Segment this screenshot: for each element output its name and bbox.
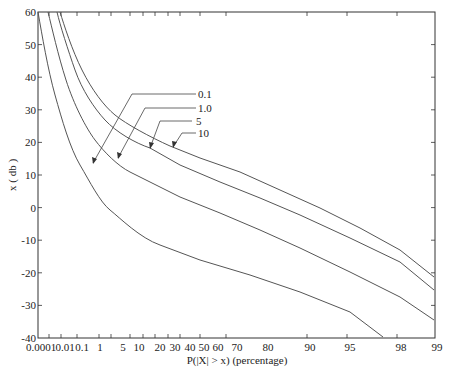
- y-tick-label: 0: [31, 202, 37, 214]
- callouts: [93, 94, 196, 163]
- x-tick-label: 1: [97, 341, 103, 353]
- x-tick-labels: 0.0001 0.01 0.1 1 5 10 20 30 40 50 60 70…: [26, 341, 443, 353]
- legend-label-5: 5: [196, 115, 202, 127]
- x-tick-label: 60: [213, 341, 225, 353]
- x-tick-label: 0.1: [75, 341, 89, 353]
- y-tick-label: -10: [21, 234, 36, 246]
- y-tick-label: 50: [25, 39, 37, 51]
- legend-label-10: 10: [198, 127, 210, 139]
- y-tick-label: 10: [25, 169, 37, 181]
- x-tick-label: 95: [345, 341, 357, 353]
- curve-0.1: [38, 12, 383, 337]
- x-tick-label: 99: [432, 341, 444, 353]
- x-ticks: [49, 12, 397, 338]
- callout-leader-0.1: [93, 94, 196, 163]
- x-tick-label: 20: [155, 341, 167, 353]
- x-tick-label: 98: [396, 341, 408, 353]
- y-tick-label: 20: [25, 136, 37, 148]
- y-tick-labels: 60 50 40 30 20 10 0 -10 -20 -30 -40: [21, 6, 36, 344]
- x-tick-label: 0.0001: [26, 341, 56, 353]
- curve-10: [60, 12, 434, 277]
- x-tick-label: 80: [263, 341, 275, 353]
- y-tick-label: 30: [25, 104, 37, 116]
- y-ticks: [38, 45, 435, 306]
- curve-1.0: [48, 12, 434, 320]
- arrow-head-icon: [117, 152, 122, 159]
- x-axis-title: P(|X| > x) (percentage): [187, 354, 288, 367]
- y-tick-label: 60: [25, 6, 37, 18]
- x-tick-label: 70: [232, 341, 244, 353]
- x-tick-label: 0.01: [55, 341, 74, 353]
- curve-5: [57, 12, 434, 290]
- y-tick-label: -20: [21, 267, 36, 279]
- chart-canvas: 60 50 40 30 20 10 0 -10 -20 -30 -40 0.00…: [0, 0, 450, 371]
- legend-label-1.0: 1.0: [198, 102, 212, 114]
- x-tick-label: 10: [134, 341, 146, 353]
- callout-leader-5: [150, 121, 192, 148]
- y-tick-label: -30: [21, 299, 36, 311]
- plot-frame: [38, 12, 435, 338]
- x-tick-label: 5: [120, 341, 126, 353]
- x-tick-label: 90: [305, 341, 317, 353]
- legend-label-0.1: 0.1: [198, 88, 212, 100]
- x-tick-label: 50: [199, 341, 211, 353]
- curves: [38, 12, 434, 337]
- callout-arrowheads: [92, 141, 177, 164]
- callout-leader-10: [173, 133, 196, 147]
- y-axis-title: x ( db ): [6, 159, 19, 191]
- y-tick-label: 40: [25, 71, 37, 83]
- x-tick-label: 40: [185, 341, 197, 353]
- x-tick-label: 30: [170, 341, 182, 353]
